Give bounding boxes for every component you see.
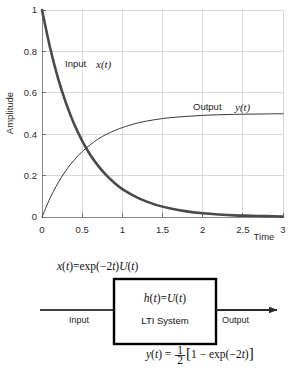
input-curve-annotation: Input x(t) — [65, 58, 112, 71]
output-annotation-math: y(t) — [234, 101, 251, 114]
diagram-svg: x(t)=exp(−2t)U(t) x(t)=exp(−2t)U(t) Inpu… — [0, 250, 296, 370]
chart-svg: 00.511.522.53 00.20.40.60.81 Time Amplit… — [0, 0, 296, 250]
x-tick-label: 1.5 — [156, 224, 169, 235]
x-tick-label: 2.5 — [236, 224, 249, 235]
y-axis-title: Amplitude — [4, 92, 15, 134]
input-equation: x(t)=exp(−2t)U(t) — [56, 260, 139, 273]
x-tick-label: 3 — [280, 224, 285, 235]
x-tick-label: 0 — [39, 224, 44, 235]
fraction-denominator: 2 — [177, 354, 183, 366]
impulse-response-equation: h(t)=U(t) — [144, 292, 186, 305]
lti-system-subtitle: LTI System — [141, 315, 188, 326]
lti-system-box — [114, 279, 216, 344]
y-tick-label: 1 — [32, 4, 37, 15]
x-tick-label: 2 — [200, 224, 205, 235]
output-equation: y(t) = 1 2 [1 − exp(−2t)] — [145, 344, 254, 366]
svg-text:[1 − exp(−2t)]: [1 − exp(−2t)] — [186, 345, 254, 361]
input-annotation-math: x(t) — [95, 58, 112, 71]
figure-page: 00.511.522.53 00.20.40.60.81 Time Amplit… — [0, 0, 296, 370]
output-curve-annotation: Output y(t) — [193, 101, 251, 114]
signal-plot: 00.511.522.53 00.20.40.60.81 Time Amplit… — [0, 0, 296, 250]
y-tick-label: 0.6 — [24, 87, 37, 98]
chart-gridlines — [42, 10, 283, 217]
output-port-label: Output — [222, 315, 250, 325]
one-half-fraction: 1 2 — [175, 344, 185, 366]
x-axis-title: Time — [254, 231, 275, 242]
output-annotation-label: Output — [193, 101, 222, 112]
input-annotation-label: Input — [65, 58, 86, 69]
lti-block-diagram: x(t)=exp(−2t)U(t) x(t)=exp(−2t)U(t) Inpu… — [0, 250, 296, 370]
input-port-label: Input — [69, 315, 90, 325]
chart-y-tick-labels: 00.20.40.60.81 — [24, 4, 37, 222]
y-tick-label: 0.4 — [24, 129, 37, 140]
svg-text:y(t) =: y(t) = — [145, 348, 171, 361]
chart-x-tick-labels: 00.511.522.53 — [39, 224, 285, 235]
x-tick-label: 0.5 — [76, 224, 89, 235]
y-tick-label: 0.2 — [24, 170, 37, 181]
x-tick-label: 1 — [120, 224, 125, 235]
y-tick-label: 0 — [32, 211, 37, 222]
y-tick-label: 0.8 — [24, 46, 37, 57]
